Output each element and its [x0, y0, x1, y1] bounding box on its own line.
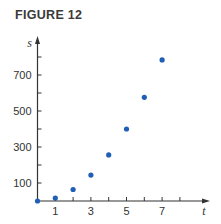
y-tick-label: 700	[13, 69, 31, 81]
scatter-chart: 1003005007001357st	[0, 0, 221, 224]
data-point	[53, 196, 58, 201]
y-axis-arrow-icon	[35, 36, 40, 44]
y-tick-label: 500	[13, 105, 31, 117]
y-tick-label: 300	[13, 141, 31, 153]
data-point	[106, 152, 111, 157]
y-axis-label: s	[27, 36, 32, 50]
data-point	[160, 57, 165, 62]
data-point	[35, 198, 40, 203]
x-tick-label: 3	[88, 205, 94, 217]
x-axis-arrow-icon	[202, 199, 210, 204]
data-point	[88, 172, 93, 177]
x-tick-label: 7	[159, 205, 165, 217]
x-axis-label: t	[202, 204, 206, 218]
data-point	[124, 126, 129, 131]
x-tick-label: 5	[123, 205, 129, 217]
data-point	[142, 95, 147, 100]
x-tick-label: 1	[52, 205, 58, 217]
data-point	[71, 187, 76, 192]
y-tick-label: 100	[13, 177, 31, 189]
